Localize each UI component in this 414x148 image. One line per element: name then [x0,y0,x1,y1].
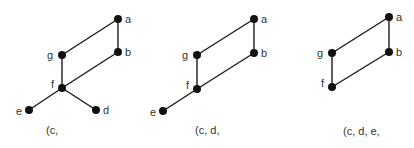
caption-2: (c, d, [195,124,219,136]
node-e [159,107,167,115]
panel-3: a b g f (c, d, e, [317,11,403,137]
edge-a-g [197,19,254,55]
label-b: b [261,47,267,59]
node-a [385,13,393,21]
node-g [193,51,201,59]
label-f: f [51,78,55,90]
diagram-canvas: a b g f e d (c, a b g f e (c, d, a [0,0,414,148]
node-a [250,15,258,23]
label-g: g [182,49,188,61]
edge-b-f [197,53,254,89]
label-a: a [261,13,268,25]
caption-3: (c, d, e, [343,125,380,137]
label-f: f [186,79,190,91]
node-g [58,51,66,59]
edge-f-d [62,88,96,110]
edge-a-g [62,19,118,55]
label-a: a [125,13,132,25]
label-g: g [317,47,323,59]
label-e: e [16,105,22,117]
node-g [328,49,336,57]
label-f: f [321,77,325,89]
node-f [328,83,336,91]
edge-a-g [332,17,389,53]
panel-1: a b g f e d (c, [16,13,132,136]
edge-b-f [62,52,118,88]
node-a [114,15,122,23]
edge-b-f [332,52,389,87]
node-b [385,48,393,56]
panel-2: a b g f e (c, d, [150,13,268,136]
label-a: a [396,11,403,23]
node-b [250,49,258,57]
label-b: b [396,46,402,58]
node-d [92,106,100,114]
label-b: b [125,46,131,58]
label-g: g [47,49,53,61]
node-f [58,84,66,92]
node-f [193,85,201,93]
label-e: e [150,106,156,118]
edge-f-e [163,89,197,111]
node-b [114,48,122,56]
label-d: d [103,104,109,116]
caption-1: (c, [46,124,58,136]
edge-f-e [29,88,62,110]
node-e [25,106,33,114]
